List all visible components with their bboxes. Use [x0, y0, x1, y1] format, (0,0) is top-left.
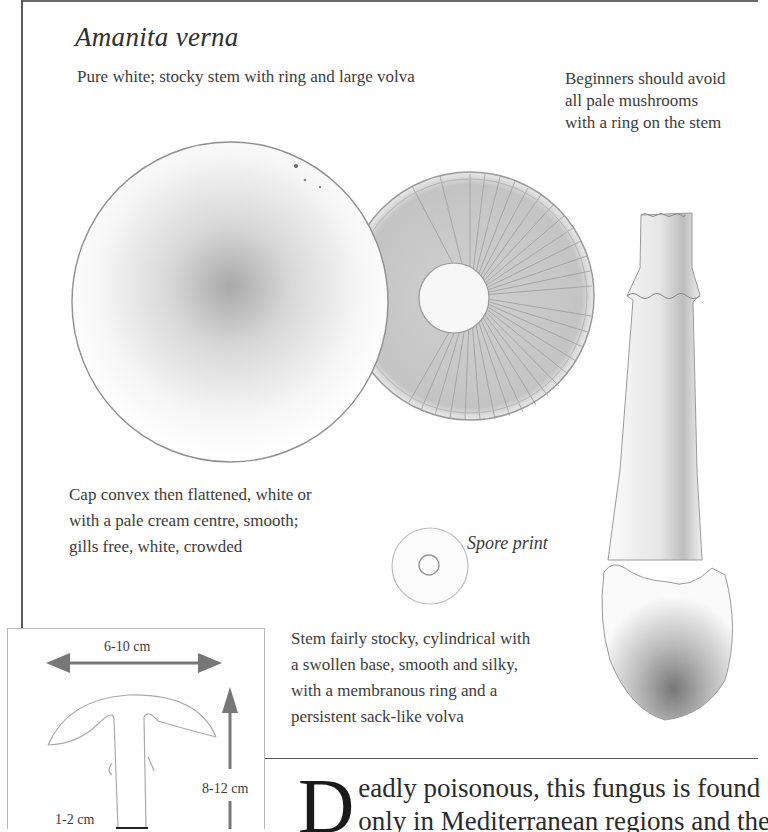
spore-print-label: Spore print — [467, 533, 548, 554]
stem-illustration — [602, 213, 733, 720]
stem-description: Stem fairly stocky, cylindrical with a s… — [291, 626, 530, 730]
height-label: 8-12 cm — [202, 779, 248, 799]
spore-print-illustration — [392, 528, 468, 604]
body-line-1: eadly poisonous, this fungus is found — [298, 772, 768, 805]
drop-cap: D — [298, 774, 354, 832]
mushroom-outline-icon — [48, 695, 216, 829]
body-paragraph: D eadly poisonous, this fungus is found … — [298, 772, 768, 832]
cap-top-illustration — [72, 142, 388, 462]
size-diagram — [8, 629, 264, 829]
cap-width-label: 6-10 cm — [104, 639, 150, 655]
height-arrow-icon — [222, 687, 238, 829]
size-chart-panel: 6-10 cm 8-12 cm 1-2 cm — [7, 628, 265, 829]
stem-width-label: 1-2 cm — [55, 812, 94, 828]
body-line-2: only in Mediterranean regions and the so… — [298, 805, 768, 832]
width-arrow-icon — [46, 653, 222, 673]
cap-description: Cap convex then flattened, white or with… — [69, 482, 312, 560]
